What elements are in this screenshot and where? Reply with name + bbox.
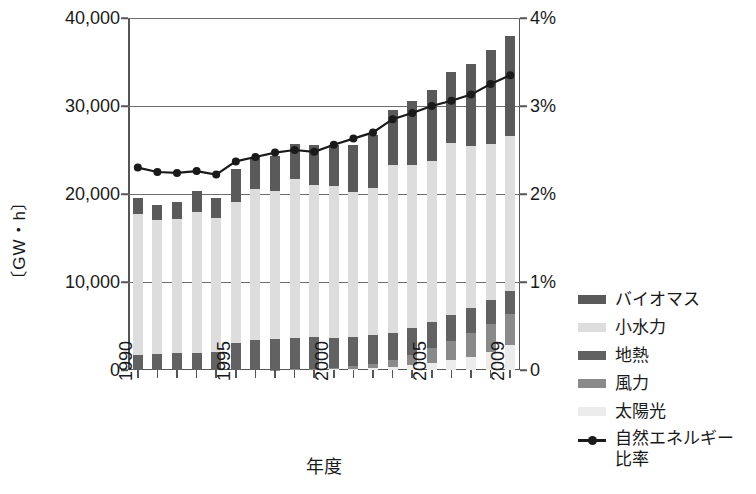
- y-tick-label-right: 2%: [530, 184, 556, 205]
- y-tick-label-right: 4%: [530, 8, 556, 29]
- legend-dot-icon: [588, 436, 597, 445]
- legend-label: 風力: [615, 372, 649, 395]
- ratio-data-point: [330, 141, 338, 149]
- y-tick-label-left: 10,000: [65, 272, 120, 293]
- y-tick-label-right: 0: [530, 360, 540, 381]
- y-tick-mark-right: [520, 17, 527, 19]
- legend-color-swatch: [578, 323, 606, 332]
- ratio-data-point: [408, 109, 416, 117]
- ratio-data-point: [447, 97, 455, 105]
- legend-label: 自然エネルギー比率: [615, 428, 735, 470]
- x-tick-mark: [372, 370, 374, 378]
- ratio-data-point: [271, 149, 279, 157]
- legend-color-swatch: [578, 351, 606, 360]
- ratio-data-point: [369, 128, 377, 136]
- legend: バイオマス小水力地熱風力太陽光自然エネルギー比率: [578, 288, 754, 477]
- legend-item: 太陽光: [578, 400, 754, 425]
- x-tick-mark: [255, 370, 257, 378]
- x-tick-label: 2005: [409, 341, 430, 381]
- x-tick-mark: [137, 370, 139, 378]
- y-tick-label-left: 40,000: [65, 8, 120, 29]
- y-tick-mark-right: [520, 193, 527, 195]
- y-tick-mark-left: [121, 281, 128, 283]
- legend-label: 太陽光: [615, 400, 666, 423]
- x-tick-mark: [176, 370, 178, 378]
- ratio-data-point: [428, 102, 436, 110]
- ratio-data-point: [212, 171, 220, 179]
- legend-label: 地熱: [615, 344, 649, 367]
- x-tick-mark: [274, 370, 276, 378]
- ratio-data-point: [389, 115, 397, 123]
- x-tick-mark: [196, 370, 198, 378]
- ratio-data-point: [506, 71, 514, 79]
- ratio-data-point: [310, 148, 318, 156]
- ratio-data-point: [251, 153, 259, 161]
- x-tick-label: 1995: [213, 341, 234, 381]
- x-tick-label: 1990: [115, 341, 136, 381]
- legend-item: 小水力: [578, 316, 754, 341]
- x-tick-mark: [294, 370, 296, 378]
- y-tick-mark-left: [121, 17, 128, 19]
- y-tick-label-right: 1%: [530, 272, 556, 293]
- ratio-data-point: [487, 80, 495, 88]
- ratio-data-point: [232, 157, 240, 165]
- legend-label: バイオマス: [615, 288, 700, 311]
- legend-color-swatch: [578, 379, 606, 388]
- legend-color-swatch: [578, 407, 606, 416]
- x-tick-label: 2009: [488, 341, 509, 381]
- legend-item: 自然エネルギー比率: [578, 428, 754, 474]
- legend-item: 風力: [578, 372, 754, 397]
- ratio-data-point: [173, 169, 181, 177]
- plot-area: 010,00020,00030,00040,000 01%2%3%4% 1990…: [128, 18, 520, 370]
- chart-root: 〔GW・h〕 010,00020,00030,00040,000 01%2%3%…: [0, 0, 756, 494]
- legend-line-marker-icon: [578, 434, 606, 446]
- x-tick-mark: [392, 370, 394, 378]
- y-tick-mark-right: [520, 369, 527, 371]
- y-tick-mark-left: [121, 193, 128, 195]
- legend-item: 地熱: [578, 344, 754, 369]
- ratio-data-point: [349, 135, 357, 143]
- legend-color-swatch: [578, 295, 606, 304]
- y-tick-mark-right: [520, 105, 527, 107]
- ratio-data-point: [134, 164, 142, 172]
- y-tick-label-right: 3%: [530, 96, 556, 117]
- x-tick-mark: [470, 370, 472, 378]
- x-tick-mark: [509, 370, 511, 378]
- line-series-renewable-ratio: [128, 18, 520, 370]
- x-tick-mark: [451, 370, 453, 378]
- x-axis-title: 年度: [128, 452, 520, 478]
- x-tick-mark: [431, 370, 433, 378]
- y-axis-left-title: 〔GW・h〕: [2, 150, 36, 330]
- ratio-data-point: [291, 146, 299, 154]
- x-tick-mark: [157, 370, 159, 378]
- x-tick-label: 2000: [311, 341, 332, 381]
- y-tick-mark-right: [520, 281, 527, 283]
- ratio-line-path: [138, 75, 510, 174]
- x-tick-mark: [235, 370, 237, 378]
- ratio-data-point: [467, 91, 475, 99]
- x-tick-mark: [353, 370, 355, 378]
- y-tick-label-left: 20,000: [65, 184, 120, 205]
- y-tick-label-left: 30,000: [65, 96, 120, 117]
- y-tick-mark-left: [121, 105, 128, 107]
- ratio-data-point: [153, 168, 161, 176]
- legend-item: バイオマス: [578, 288, 754, 313]
- ratio-data-point: [193, 167, 201, 175]
- legend-label: 小水力: [615, 316, 666, 339]
- x-tick-mark: [333, 370, 335, 378]
